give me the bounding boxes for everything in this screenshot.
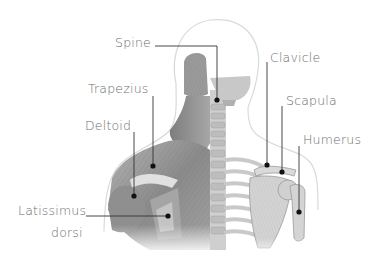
label-deltoid: Deltoid: [85, 119, 131, 133]
trapezius-marker-dot: [150, 163, 155, 168]
label-spine: Spine: [115, 36, 151, 50]
deltoid-marker-dot: [131, 193, 136, 198]
label-humerus: Humerus: [303, 133, 361, 147]
spine-marker-dot: [214, 97, 219, 102]
latissimus-marker-dot: [165, 213, 170, 218]
scapula-marker-dot: [279, 169, 284, 174]
clavicle-marker-dot: [264, 162, 269, 167]
label-clavicle: Clavicle: [270, 51, 320, 65]
label-trapezius: Trapezius: [88, 82, 149, 96]
humerus-marker-dot: [296, 209, 301, 214]
label-scapula: Scapula: [286, 94, 337, 108]
label-latissimus: Latissimus: [18, 204, 86, 218]
anatomy-diagram: Spine Trapezius Deltoid Latissimus dorsi…: [0, 0, 381, 272]
right-bones: [240, 166, 320, 258]
label-latissimus-dorsi: dorsi: [51, 226, 83, 240]
